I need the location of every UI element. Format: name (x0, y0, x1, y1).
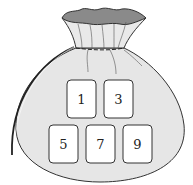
card-3: 3 (104, 80, 133, 118)
card-9: 9 (123, 125, 152, 163)
card-7-label: 7 (96, 137, 104, 152)
card-5: 5 (49, 125, 78, 163)
bag-illustration: 1 3 5 7 9 (0, 0, 193, 185)
card-7: 7 (86, 125, 115, 163)
card-9-label: 9 (133, 137, 141, 152)
card-1: 1 (67, 80, 96, 118)
bag-opening (62, 8, 146, 24)
card-1-label: 1 (77, 92, 85, 107)
card-5-label: 5 (59, 137, 67, 152)
card-3-label: 3 (114, 92, 122, 107)
